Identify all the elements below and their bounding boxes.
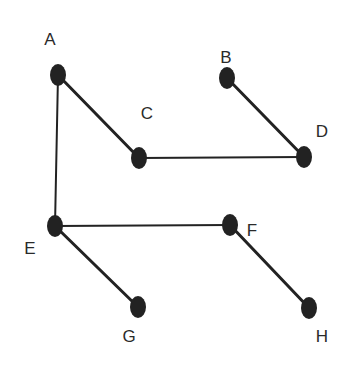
edges-layer <box>55 75 309 308</box>
node-label-b: B <box>220 48 231 67</box>
labels-layer: ABCDEFGH <box>24 30 328 346</box>
node-label-a: A <box>44 30 56 49</box>
node-g <box>130 296 146 318</box>
edge-e-f <box>55 225 230 226</box>
node-b <box>219 67 235 89</box>
node-a <box>50 64 66 86</box>
node-label-g: G <box>122 327 135 346</box>
edge-f-h <box>230 225 309 308</box>
node-label-c: C <box>141 104 153 123</box>
node-label-f: F <box>247 221 257 240</box>
edge-a-e <box>55 75 58 226</box>
node-label-d: D <box>316 122 328 141</box>
nodes-layer <box>47 64 317 319</box>
edge-a-c <box>58 75 139 158</box>
edge-e-g <box>55 226 138 307</box>
node-h <box>301 297 317 319</box>
node-d <box>296 146 312 168</box>
edge-b-d <box>227 78 304 157</box>
node-label-h: H <box>316 327 328 346</box>
edge-c-d <box>139 157 304 158</box>
node-f <box>222 214 238 236</box>
graph-diagram: ABCDEFGH <box>0 0 348 366</box>
node-c <box>131 147 147 169</box>
node-e <box>47 215 63 237</box>
node-label-e: E <box>24 239 35 258</box>
